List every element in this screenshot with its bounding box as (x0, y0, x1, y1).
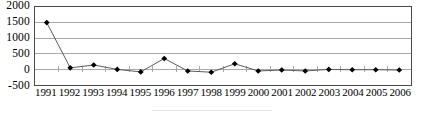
x-tick-label: 2004 (342, 86, 364, 99)
data-point (91, 62, 97, 68)
x-tick-label: 2000 (248, 86, 270, 99)
y-tick-label: 1500 (6, 16, 30, 28)
x-tick-label: 2001 (271, 86, 293, 99)
x-tick-label: 1999 (224, 86, 246, 99)
data-point (44, 20, 50, 26)
data-point (161, 56, 167, 62)
y-tick-label: 2000 (6, 0, 30, 12)
y-tick-label: -500 (8, 80, 30, 92)
legend-box (152, 110, 272, 111)
plot-area (34, 6, 412, 86)
plot-svg (35, 7, 411, 85)
x-tick-label: 1998 (200, 86, 222, 99)
data-point (349, 67, 355, 73)
x-tick-label: 1997 (177, 86, 199, 99)
data-point (114, 67, 120, 73)
x-tick-label: 1993 (82, 86, 104, 99)
x-tick-label: 2006 (389, 86, 411, 99)
x-tick-label: 1991 (35, 86, 57, 99)
x-axis: 1991199219931994199519961997199819992000… (34, 86, 412, 102)
x-tick-label: 2003 (319, 86, 341, 99)
x-tick-label: 2002 (295, 86, 317, 99)
x-tick-label: 1995 (130, 86, 152, 99)
x-tick-label: 2005 (366, 86, 388, 99)
y-axis: 2000150010005000-500 (0, 0, 33, 95)
data-point (373, 67, 379, 73)
line-chart: 2000150010005000-500 1991199219931994199… (0, 0, 424, 115)
y-tick-label: 0 (24, 64, 30, 76)
series-line (47, 23, 400, 73)
y-tick-label: 1000 (6, 32, 30, 44)
data-point (396, 67, 402, 73)
y-tick-label: 500 (12, 48, 30, 60)
data-point (138, 69, 144, 75)
x-tick-label: 1994 (106, 86, 128, 99)
data-point (208, 69, 214, 75)
data-point (232, 61, 238, 67)
x-tick-label: 1992 (59, 86, 81, 99)
gridlines (35, 23, 411, 70)
data-point (279, 67, 285, 73)
data-point (326, 67, 332, 73)
x-tick-label: 1996 (153, 86, 175, 99)
